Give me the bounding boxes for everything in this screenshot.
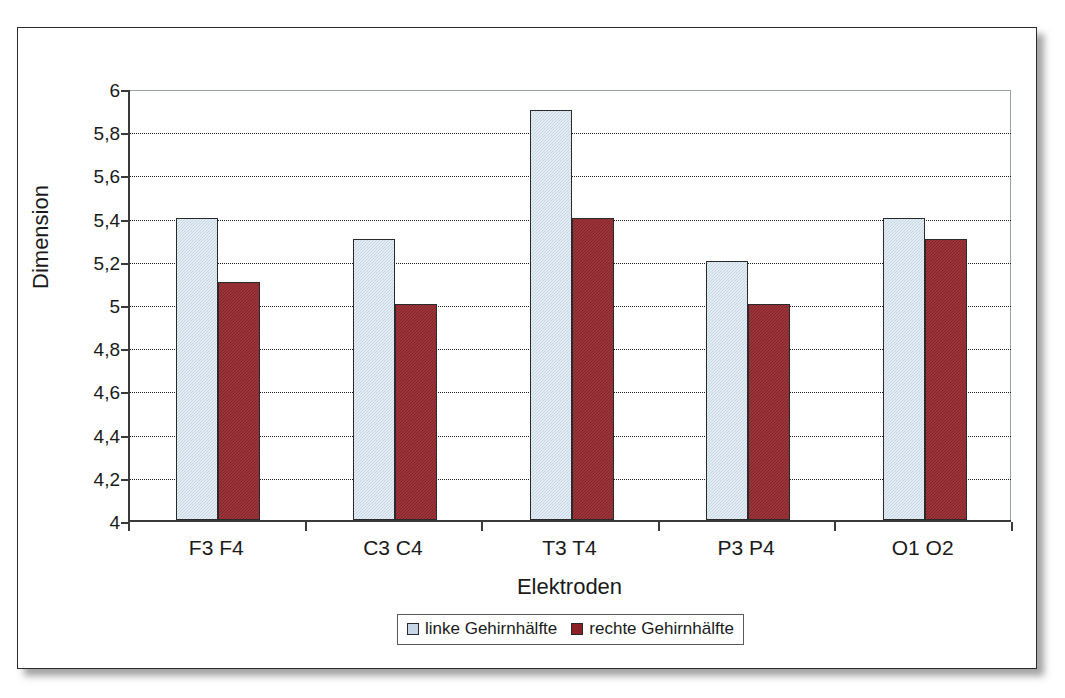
y-axis-tick-label: 4,6 [94, 383, 120, 402]
y-axis-tick-mark [121, 522, 128, 524]
x-axis-category-label: P3 P4 [658, 536, 835, 560]
y-axis-tick-label: 5,4 [94, 210, 120, 229]
bar-right-hemisphere[interactable] [218, 282, 260, 520]
x-axis-category-label: T3 T4 [481, 536, 658, 560]
x-axis-tick-mark [834, 522, 836, 531]
legend-label: rechte Gehirnhälfte [589, 619, 734, 639]
x-axis-title: Elektroden [128, 574, 1011, 600]
chart-legend: linke Gehirnhälfterechte Gehirnhälfte [397, 614, 744, 645]
y-axis-tick-label: 4,4 [94, 426, 120, 445]
bar-left-hemisphere[interactable] [706, 261, 748, 520]
bar-group [353, 90, 437, 520]
y-axis-tick-mark [121, 133, 128, 135]
bar-right-hemisphere[interactable] [748, 304, 790, 520]
x-axis-category-label: F3 F4 [128, 536, 305, 560]
y-axis-tick-label: 5 [109, 297, 120, 316]
legend-label: linke Gehirnhälfte [425, 619, 557, 639]
legend-item[interactable]: rechte Gehirnhälfte [571, 619, 734, 639]
chart-screenshot: 44,24,44,64,855,25,45,65,86 Dimension F3… [0, 0, 1065, 698]
x-axis-category-label: O1 O2 [834, 536, 1011, 560]
y-axis-tick-mark [121, 176, 128, 178]
y-axis-tick-label: 4,2 [94, 469, 120, 488]
bar-left-hemisphere[interactable] [530, 110, 572, 520]
plot-inner [130, 90, 1011, 520]
y-axis-tick-label: 4 [109, 513, 120, 532]
y-axis-tick-label: 5,8 [94, 124, 120, 143]
y-axis-tick-mark [121, 220, 128, 222]
bar-left-hemisphere[interactable] [883, 218, 925, 520]
y-axis-tick-label: 4,8 [94, 340, 120, 359]
x-axis-tick-mark [1011, 522, 1013, 531]
y-axis-tick-mark [121, 479, 128, 481]
plot-right-edge [1010, 90, 1011, 520]
bar-right-hemisphere[interactable] [925, 239, 967, 520]
y-axis-title: Dimension [28, 137, 54, 337]
bar-left-hemisphere[interactable] [353, 239, 395, 520]
bar-group [176, 90, 260, 520]
bar-right-hemisphere[interactable] [572, 218, 614, 520]
x-axis-tick-mark [658, 522, 660, 531]
legend-swatch-icon [407, 623, 419, 635]
bar-group [706, 90, 790, 520]
x-axis-tick-mark [481, 522, 483, 531]
legend-swatch-icon [571, 623, 583, 635]
bar-left-hemisphere[interactable] [176, 218, 218, 520]
bar-group [883, 90, 967, 520]
y-axis-tick-label: 5,2 [94, 253, 120, 272]
x-axis-tick-marks [128, 522, 1011, 531]
legend-item[interactable]: linke Gehirnhälfte [407, 619, 557, 639]
y-axis-tick-mark [121, 90, 128, 92]
y-axis-tick-label: 5,6 [94, 167, 120, 186]
y-axis-tick-mark [121, 306, 128, 308]
plot-area [128, 90, 1011, 522]
y-axis-tick-mark [121, 392, 128, 394]
x-axis-tick-mark [305, 522, 307, 531]
y-axis-tick-labels: 44,24,44,64,855,25,45,65,86 [58, 90, 120, 522]
bar-group [530, 90, 614, 520]
chart-card: 44,24,44,64,855,25,45,65,86 Dimension F3… [17, 27, 1037, 669]
y-axis-tick-label: 6 [109, 81, 120, 100]
x-axis-category-label: C3 C4 [305, 536, 482, 560]
y-axis-tick-mark [121, 436, 128, 438]
bar-right-hemisphere[interactable] [395, 304, 437, 520]
x-axis-tick-labels: F3 F4C3 C4T3 T4P3 P4O1 O2 [128, 536, 1011, 568]
x-axis-tick-mark [128, 522, 130, 531]
y-axis-tick-mark [121, 263, 128, 265]
y-axis-tick-mark [121, 349, 128, 351]
